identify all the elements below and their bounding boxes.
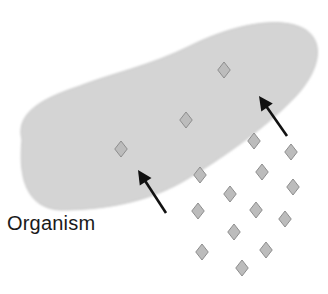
molecule-diamond-icon <box>279 211 291 227</box>
molecule-diamond-icon <box>236 260 248 276</box>
molecule-diamond-icon <box>192 203 204 219</box>
molecule-diamond-icon <box>228 224 240 240</box>
molecule-diamond-icon <box>256 164 268 180</box>
molecule-diamond-icon <box>287 179 299 195</box>
molecule-diamond-icon <box>250 202 262 218</box>
molecule-diamond-icon <box>224 186 236 202</box>
molecule-diamond-icon <box>285 144 297 160</box>
molecule-diamond-icon <box>260 242 272 258</box>
organism-label: Organism <box>7 212 95 235</box>
molecule-diamond-icon <box>196 244 208 260</box>
diagram-canvas <box>0 0 328 294</box>
